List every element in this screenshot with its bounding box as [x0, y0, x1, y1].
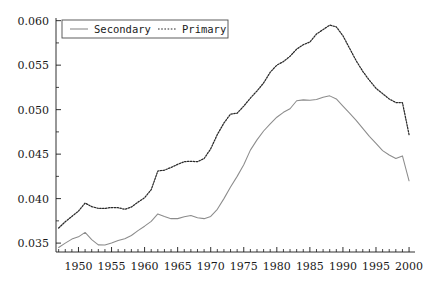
y-tick-label: 0.035: [18, 237, 50, 250]
x-tick-label: 1980: [263, 260, 291, 273]
x-axis: 1950195519601965197019751980198519901995…: [56, 247, 423, 273]
x-tick-label: 1990: [329, 260, 357, 273]
line-chart: 0.0350.0400.0450.0500.0550.060 195019551…: [0, 0, 423, 290]
x-tick-label: 2000: [395, 260, 423, 273]
legend-label-secondary: Secondary: [94, 23, 151, 35]
x-tick-label: 1960: [131, 260, 159, 273]
x-tick-label: 1965: [164, 260, 192, 273]
y-axis: 0.0350.0400.0450.0500.0550.060: [18, 15, 62, 252]
x-tick-label: 1995: [362, 260, 390, 273]
y-tick-label: 0.045: [18, 148, 50, 161]
x-tick-label: 1955: [98, 260, 126, 273]
series-line-secondary: [59, 96, 409, 248]
data-series-group: [59, 25, 409, 247]
y-tick-label: 0.060: [18, 15, 50, 28]
x-tick-label: 1975: [230, 260, 258, 273]
y-tick-label: 0.050: [18, 104, 50, 117]
legend-label-primary: Primary: [182, 23, 226, 35]
x-tick-label: 1970: [197, 260, 225, 273]
y-tick-label: 0.055: [18, 59, 50, 72]
y-tick-label: 0.040: [18, 193, 50, 206]
x-tick-label: 1950: [64, 260, 92, 273]
chart-legend: Secondary Primary: [62, 20, 228, 38]
chart-figure: 0.0350.0400.0450.0500.0550.060 195019551…: [0, 0, 423, 290]
x-tick-label: 1985: [296, 260, 324, 273]
series-line-primary: [59, 25, 409, 228]
